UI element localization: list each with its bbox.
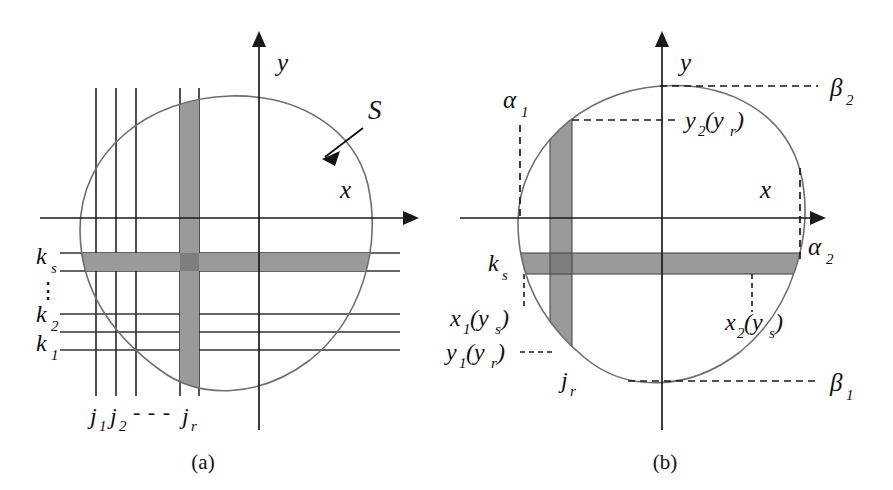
beta-1-sub: 1 xyxy=(846,387,854,403)
alpha-2-sub: 2 xyxy=(826,251,834,267)
k-labels-group: k s ⋮ k 2 k 1 xyxy=(36,243,60,363)
x2-close: ) xyxy=(773,309,783,335)
region-label-S: S xyxy=(368,95,382,125)
beta-2-base: β xyxy=(829,74,843,101)
beta-2-sub: 2 xyxy=(846,92,854,108)
label-y1-yr: y 1 (y r ) xyxy=(444,339,505,371)
panel-b-diagram: x y α 1 α 2 β 2 β 1 k xyxy=(440,0,893,490)
k-s-sub: s xyxy=(502,267,508,283)
label-y2-yr: y 2 (y r ) xyxy=(683,107,744,139)
j-labels-horizontal-dots: - - - xyxy=(133,399,171,424)
strip-intersection-a xyxy=(180,253,199,271)
j-label-r-sub: r xyxy=(191,418,197,434)
x2-base: x xyxy=(724,309,736,335)
panel-a-diagram: x y S k s ⋮ k 2 k 1 j 1 j 2 - - - j r (a… xyxy=(0,0,440,490)
j-label-1-base: j xyxy=(87,403,97,429)
alpha-2-base: α xyxy=(808,233,822,260)
y-axis-arrowhead-a xyxy=(252,31,266,47)
j-r-sub: r xyxy=(570,383,576,399)
k-label-2-base: k xyxy=(36,301,47,327)
x2-arg: (y xyxy=(744,309,763,335)
label-beta-2: β 2 xyxy=(829,74,854,108)
label-k-s: k s xyxy=(488,250,508,283)
region-curve-S-a xyxy=(80,96,372,391)
alpha-1-base: α xyxy=(503,86,517,113)
y2-close: ) xyxy=(734,107,744,133)
y-axis-label-a: y xyxy=(274,49,289,76)
vertical-shaded-strip-b xyxy=(550,40,572,460)
region-pointer-line xyxy=(325,128,363,157)
figure-root: x y S k s ⋮ k 2 k 1 j 1 j 2 - - - j r (a… xyxy=(0,0,893,490)
y1-base: y xyxy=(444,339,457,365)
k-label-s-sub: s xyxy=(51,260,57,276)
x-axis-label-b: x xyxy=(759,176,771,203)
strip-intersection-b xyxy=(550,253,572,274)
y2-base: y xyxy=(683,107,696,133)
j-r-base: j xyxy=(558,367,568,393)
k-label-s-base: k xyxy=(36,243,47,269)
j-labels-group: j 1 j 2 - - - j r xyxy=(87,399,197,434)
label-beta-1: β 1 xyxy=(829,369,854,403)
label-alpha-1: α 1 xyxy=(503,86,529,120)
k-label-1-base: k xyxy=(36,330,47,356)
label-x1-ys: x 1 (y s ) xyxy=(449,305,509,337)
j-label-2-sub: 2 xyxy=(119,418,127,434)
x1-close: ) xyxy=(499,305,509,331)
beta-1-base: β xyxy=(829,369,843,396)
horizontal-shaded-strip-a xyxy=(40,253,410,271)
k-label-1-sub: 1 xyxy=(51,347,59,363)
j-label-1-sub: 1 xyxy=(99,418,107,434)
x1-base: x xyxy=(449,305,461,331)
y1-arg: (y xyxy=(466,339,485,365)
k-label-2-sub: 2 xyxy=(51,318,59,334)
x1-arg: (y xyxy=(470,305,489,331)
j-label-2-base: j xyxy=(107,403,117,429)
caption-b: (b) xyxy=(653,450,678,474)
y1-close: ) xyxy=(495,339,505,365)
caption-a: (a) xyxy=(191,450,214,474)
y-axis-label-b: y xyxy=(677,49,692,76)
x-axis-arrowhead-b xyxy=(810,211,826,225)
k-labels-vertical-dots: ⋮ xyxy=(37,278,60,303)
alpha-1-sub: 1 xyxy=(521,104,529,120)
x-axis-arrowhead-a xyxy=(403,211,419,225)
label-alpha-2: α 2 xyxy=(808,233,834,267)
x-axis-label-a: x xyxy=(339,176,351,203)
label-x2-ys: x 2 (y s ) xyxy=(724,309,783,341)
label-j-r: j r xyxy=(558,367,576,399)
j-label-r-base: j xyxy=(179,403,189,429)
y-axis-arrowhead-b xyxy=(655,31,669,47)
k-s-base: k xyxy=(488,250,499,276)
y2-arg: (y xyxy=(705,107,724,133)
